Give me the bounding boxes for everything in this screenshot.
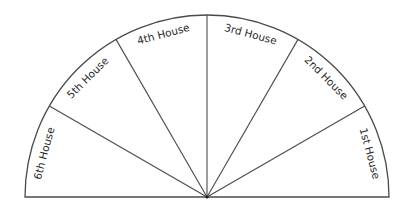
center-point bbox=[205, 195, 208, 198]
houses-semicircle-diagram: 1st House2nd House3rd House4th House5th … bbox=[0, 0, 410, 210]
